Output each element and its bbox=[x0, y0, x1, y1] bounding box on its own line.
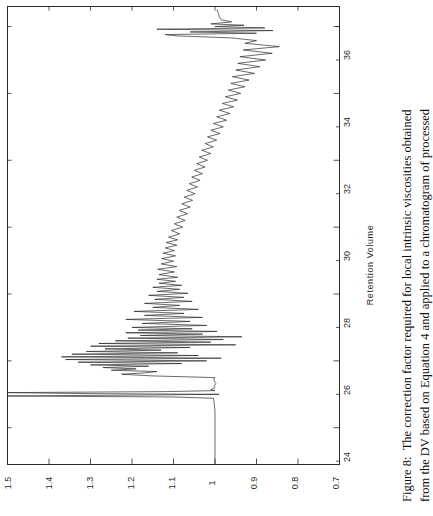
rv-tick-label-30: 30 bbox=[342, 251, 352, 261]
cf-tick-label-1.4: 1.4 bbox=[44, 477, 54, 490]
caption-line-1: Figure 8: The correction factor required… bbox=[400, 109, 415, 502]
figure-caption: Figure 8: The correction factor required… bbox=[352, 0, 427, 516]
rv-tick-label-36: 36 bbox=[342, 50, 352, 60]
cf-tick-label-1.2: 1.2 bbox=[126, 477, 136, 490]
cf-tick-label-1: 1 bbox=[207, 480, 217, 485]
cf-tick-label-1.3: 1.3 bbox=[85, 477, 95, 490]
cf-tick-label-1.1: 1.1 bbox=[167, 477, 177, 490]
correction-factor-curve bbox=[8, 10, 280, 465]
rv-tick-label-28: 28 bbox=[342, 318, 352, 328]
cf-tick-label-0.7: 0.7 bbox=[331, 477, 341, 490]
caption-label: Figure 8: bbox=[400, 457, 414, 502]
figure-plot-area: 24 26 28 30 32 34 36 1.5 1.4 1.3 1.2 1.1… bbox=[0, 0, 352, 516]
rv-tick-label-34: 34 bbox=[342, 117, 352, 127]
rv-tick-label-26: 26 bbox=[342, 385, 352, 395]
caption-text-1: The correction factor required for local… bbox=[400, 109, 414, 450]
cf-tick-label-0.9: 0.9 bbox=[249, 477, 259, 490]
caption-line-2: from the DV based on Equation 4 and appl… bbox=[418, 109, 433, 502]
rv-tick-label-32: 32 bbox=[342, 184, 352, 194]
plot-canvas bbox=[0, 0, 352, 516]
cf-tick-label-1.5: 1.5 bbox=[3, 477, 13, 490]
cf-tick-label-0.8: 0.8 bbox=[290, 477, 300, 490]
rv-tick-label-24: 24 bbox=[342, 452, 352, 462]
